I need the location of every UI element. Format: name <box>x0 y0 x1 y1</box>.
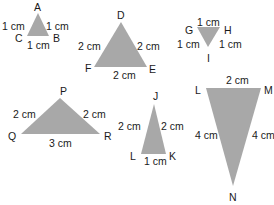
vertex-label-m: M <box>264 84 273 96</box>
side-length-fe: 2 cm <box>113 69 136 81</box>
vertex-label-i: I <box>207 52 210 64</box>
side-length-de: 2 cm <box>137 40 160 52</box>
triangle-diagram: A C B 1 cm 1 cm 1 cm D F E 2 cm 2 cm 2 c… <box>0 0 274 205</box>
side-length-pq: 2 cm <box>13 108 36 120</box>
side-length-lm: 2 cm <box>226 74 249 86</box>
vertex-label-p: P <box>60 85 67 97</box>
triangle-jkl: J L K 2 cm 2 cm 1 cm <box>118 90 184 167</box>
vertex-label-j: J <box>153 90 158 102</box>
vertex-label-k: K <box>169 150 176 162</box>
triangle-def: D F E 2 cm 2 cm 2 cm <box>78 9 160 81</box>
triangle-lmn: L M N 2 cm 4 cm 4 cm <box>195 74 274 203</box>
side-length-cb: 1 cm <box>27 39 50 51</box>
side-length-ab: 1 cm <box>46 20 69 32</box>
triangle-abc: A C B 1 cm 1 cm 1 cm <box>2 1 69 51</box>
vertex-label-l: L <box>195 84 201 96</box>
vertex-label-b: B <box>53 32 60 44</box>
side-length-mn: 4 cm <box>252 129 274 141</box>
vertex-label-g: G <box>185 24 193 36</box>
triangle-pqr: P Q R 2 cm 2 cm 3 cm <box>8 85 112 149</box>
side-length-qr: 3 cm <box>49 137 72 149</box>
vertex-label-n: N <box>229 191 237 203</box>
side-length-gh: 1 cm <box>197 16 220 28</box>
side-length-df: 2 cm <box>78 40 101 52</box>
side-length-ln: 4 cm <box>195 129 218 141</box>
side-length-jk: 2 cm <box>161 120 184 132</box>
side-length-ac: 1 cm <box>2 20 25 32</box>
triangle-ghi: G H I 1 cm 1 cm 1 cm <box>177 16 242 64</box>
vertex-label-a: A <box>34 1 41 13</box>
triangles-figure: A C B 1 cm 1 cm 1 cm D F E 2 cm 2 cm 2 c… <box>0 0 274 205</box>
side-length-hi: 1 cm <box>219 38 242 50</box>
vertex-label-f: F <box>85 62 91 74</box>
vertex-label-q: Q <box>8 130 16 142</box>
vertex-label-r: R <box>104 130 112 142</box>
side-length-gi: 1 cm <box>177 38 200 50</box>
triangle-ghi-shape <box>197 27 220 47</box>
side-length-jl: 2 cm <box>118 120 141 132</box>
vertex-label-c: C <box>15 32 23 44</box>
vertex-label-h: H <box>224 24 232 36</box>
side-length-lk: 1 cm <box>144 155 167 167</box>
vertex-label-e: E <box>149 63 156 75</box>
vertex-label-l: L <box>130 150 136 162</box>
side-length-pr: 2 cm <box>83 108 106 120</box>
vertex-label-d: D <box>117 9 125 21</box>
